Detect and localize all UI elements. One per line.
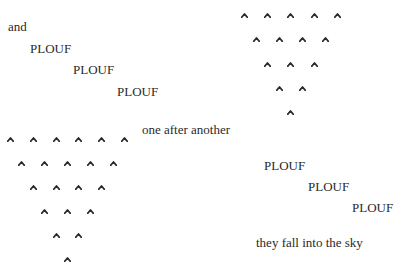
bottom-left-caret-icon: [30, 185, 37, 190]
top-right-caret-icon: [311, 62, 318, 67]
bottom-left-caret-icon: [53, 185, 60, 190]
bottom-left-caret-icon: [7, 137, 14, 142]
bottom-left-caret-icon: [75, 185, 82, 190]
bottom-left-caret-icon: [41, 209, 48, 214]
poem-line-plouf-1: PLOUF: [30, 42, 71, 56]
bottom-left-caret-icon: [110, 161, 117, 166]
top-right-caret-icon: [322, 37, 329, 42]
bottom-left-caret-icon: [53, 233, 60, 238]
bottom-left-caret-icon: [53, 137, 60, 142]
bottom-left-caret-icon: [75, 233, 82, 238]
bottom-left-caret-icon: [87, 209, 94, 214]
top-right-caret-icon: [241, 13, 248, 18]
top-right-caret-icon: [276, 37, 283, 42]
poem-line-one-after-another: one after another: [142, 123, 230, 137]
top-right-caret-icon: [334, 13, 341, 18]
bottom-left-caret-icon: [64, 161, 71, 166]
bottom-left-caret-icon: [30, 137, 37, 142]
top-right-caret-icon: [264, 62, 271, 67]
bottom-left-caret-icon: [87, 161, 94, 166]
bottom-left-caret-icon: [98, 185, 105, 190]
top-right-caret-icon: [299, 37, 306, 42]
bottom-left-caret-icon: [98, 137, 105, 142]
top-right-caret-icon: [276, 86, 283, 91]
top-right-caret-icon: [253, 37, 260, 42]
bottom-left-caret-icon: [18, 161, 25, 166]
top-right-caret-icon: [299, 86, 306, 91]
top-right-caret-icon: [311, 13, 318, 18]
top-right-caret-icon: [287, 62, 294, 67]
bottom-left-caret-icon: [64, 209, 71, 214]
bottom-left-caret-icon: [75, 137, 82, 142]
poem-line-plouf-2: PLOUF: [73, 63, 114, 77]
poem-line-and: and: [8, 20, 27, 34]
poem-line-plouf-3: PLOUF: [117, 85, 158, 99]
poem-line-plouf-6: PLOUF: [352, 201, 393, 215]
poem-line-plouf-4: PLOUF: [264, 159, 305, 173]
top-right-caret-icon: [287, 13, 294, 18]
poem-line-plouf-5: PLOUF: [308, 180, 349, 194]
top-right-caret-icon: [264, 13, 271, 18]
top-right-caret-icon: [287, 110, 294, 115]
poem-line-they-fall: they fall into the sky: [256, 236, 363, 250]
bottom-left-caret-icon: [64, 257, 71, 262]
bottom-left-caret-icon: [121, 137, 128, 142]
bottom-left-caret-icon: [41, 161, 48, 166]
